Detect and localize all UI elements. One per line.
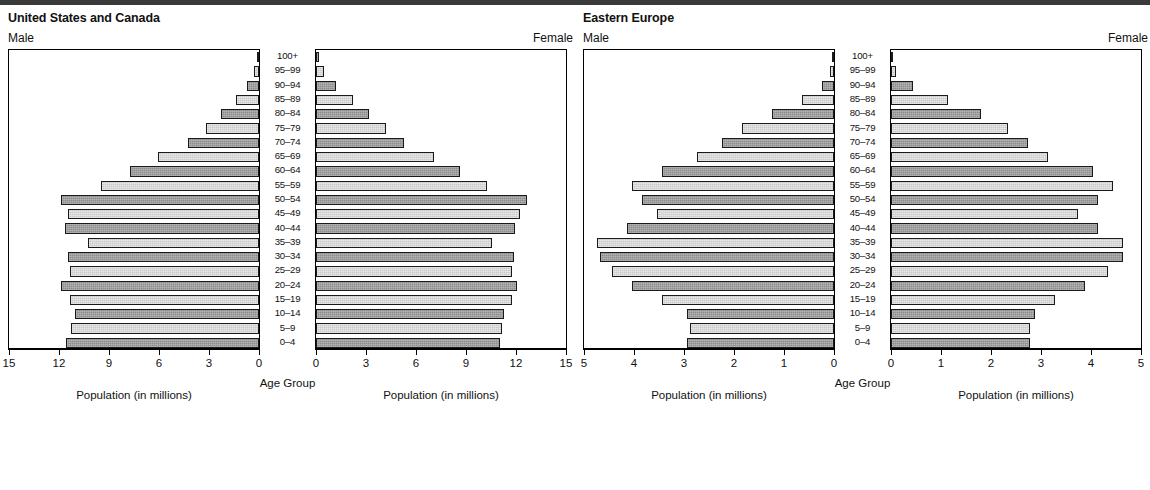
- bar-male-45–49: [68, 209, 259, 219]
- bar-male-35–39: [597, 238, 834, 248]
- axis-tick: [316, 349, 317, 355]
- age-group-label: 40–44: [835, 223, 890, 233]
- age-group-label: 75–79: [260, 123, 315, 133]
- bar-female-95–99: [891, 66, 896, 76]
- panel-united-states-and-canada: United States and Canada Male Female 100…: [8, 10, 573, 410]
- axis-tick: [734, 349, 735, 355]
- pyramid-plot-usca: 100+95–9990–9485–8980–8475–7970–7465–696…: [8, 49, 573, 349]
- bar-female-65–69: [891, 152, 1048, 162]
- bar-male-55–59: [632, 181, 834, 191]
- axis-tick-label: 4: [1078, 357, 1104, 369]
- axis-tick-label: 0: [303, 357, 329, 369]
- age-group-label: 5–9: [835, 323, 890, 333]
- bar-female-90–94: [316, 81, 336, 91]
- axis-tick-label: 9: [453, 357, 479, 369]
- age-group-label: 85–89: [260, 94, 315, 104]
- bar-female-85–89: [316, 95, 353, 105]
- axis-tick: [891, 349, 892, 355]
- axis-tick-label: 9: [96, 357, 122, 369]
- bar-female-5–9: [891, 323, 1030, 333]
- bar-male-55–59: [101, 181, 259, 191]
- bar-female-5–9: [316, 323, 502, 333]
- x-axis-usca: 15129630 03691215: [8, 349, 573, 375]
- axis-tick-label: 2: [721, 357, 747, 369]
- legend-male-usca: Male: [8, 31, 34, 45]
- axis-tick: [416, 349, 417, 355]
- bar-female-25–29: [891, 266, 1108, 276]
- age-group-label: 0–4: [835, 337, 890, 347]
- bar-male-40–44: [627, 223, 834, 233]
- bar-female-45–49: [891, 209, 1078, 219]
- x-axis-label-female-usca: Population (in millions): [315, 389, 567, 401]
- bar-female-60–64: [316, 166, 460, 176]
- age-group-label: 55–59: [835, 180, 890, 190]
- axis-tick: [366, 349, 367, 355]
- age-group-label: 10–14: [260, 308, 315, 318]
- axis-tick: [1091, 349, 1092, 355]
- bar-male-70–74: [188, 138, 259, 148]
- bar-female-15–19: [891, 295, 1055, 305]
- captions-usca: Population (in millions) Age Group Popul…: [8, 375, 573, 415]
- legend-male-ee: Male: [583, 31, 609, 45]
- bar-female-20–24: [891, 281, 1085, 291]
- age-group-label: 60–64: [835, 165, 890, 175]
- sex-legend-usca: Male Female: [8, 31, 573, 49]
- bar-female-35–39: [316, 238, 492, 248]
- axis-tick-label: 3: [196, 357, 222, 369]
- bar-female-75–79: [316, 123, 386, 133]
- plot-area-male-ee: [583, 49, 835, 349]
- bar-female-70–74: [891, 138, 1028, 148]
- bar-female-40–44: [316, 223, 515, 233]
- bar-male-20–24: [61, 281, 259, 291]
- bar-male-15–19: [662, 295, 834, 305]
- bar-female-60–64: [891, 166, 1093, 176]
- axis-tick: [584, 349, 585, 355]
- bar-female-80–84: [891, 109, 981, 119]
- plot-area-female-usca: [315, 49, 567, 349]
- age-group-label: 40–44: [260, 223, 315, 233]
- bar-female-30–34: [316, 252, 514, 262]
- age-group-label: 60–64: [260, 165, 315, 175]
- age-group-label: 95–99: [260, 65, 315, 75]
- age-group-label: 70–74: [260, 137, 315, 147]
- axis-tick: [634, 349, 635, 355]
- bar-female-30–34: [891, 252, 1123, 262]
- age-group-label: 10–14: [835, 308, 890, 318]
- age-group-label: 90–94: [260, 80, 315, 90]
- bar-female-0–4: [316, 338, 500, 348]
- bar-female-10–14: [316, 309, 504, 319]
- age-group-label: 95–99: [835, 65, 890, 75]
- bar-male-100plus: [257, 52, 259, 62]
- axis-tick-label: 6: [403, 357, 429, 369]
- bar-male-65–69: [158, 152, 259, 162]
- x-axis-label-male-ee: Population (in millions): [583, 389, 835, 401]
- axis-tick: [684, 349, 685, 355]
- legend-female-ee: Female: [1108, 31, 1148, 45]
- age-group-label: 25–29: [260, 265, 315, 275]
- bar-male-75–79: [206, 123, 259, 133]
- axis-tick: [259, 349, 260, 355]
- age-group-axis-ee: 100+95–9990–9485–8980–8475–7970–7465–696…: [835, 49, 890, 349]
- bar-male-90–94: [822, 81, 834, 91]
- axis-tick: [159, 349, 160, 355]
- bar-male-80–84: [221, 109, 259, 119]
- bar-male-85–89: [802, 95, 834, 105]
- bar-male-30–34: [68, 252, 259, 262]
- age-group-label: 30–34: [260, 251, 315, 261]
- x-axis-female-ee: 012345: [890, 349, 1142, 375]
- bar-male-35–39: [88, 238, 259, 248]
- bar-female-20–24: [316, 281, 517, 291]
- bar-male-95–99: [830, 66, 834, 76]
- x-axis-ee: 543210 012345: [583, 349, 1148, 375]
- axis-tick: [991, 349, 992, 355]
- axis-tick-label: 0: [246, 357, 272, 369]
- axis-tick-label: 12: [46, 357, 72, 369]
- axis-tick: [209, 349, 210, 355]
- bar-male-95–99: [254, 66, 259, 76]
- age-group-label: 65–69: [260, 151, 315, 161]
- bar-female-90–94: [891, 81, 913, 91]
- age-group-axis-usca: 100+95–9990–9485–8980–8475–7970–7465–696…: [260, 49, 315, 349]
- axis-tick: [466, 349, 467, 355]
- axis-tick: [834, 349, 835, 355]
- caption-right-usca: Population (in millions): [315, 375, 567, 415]
